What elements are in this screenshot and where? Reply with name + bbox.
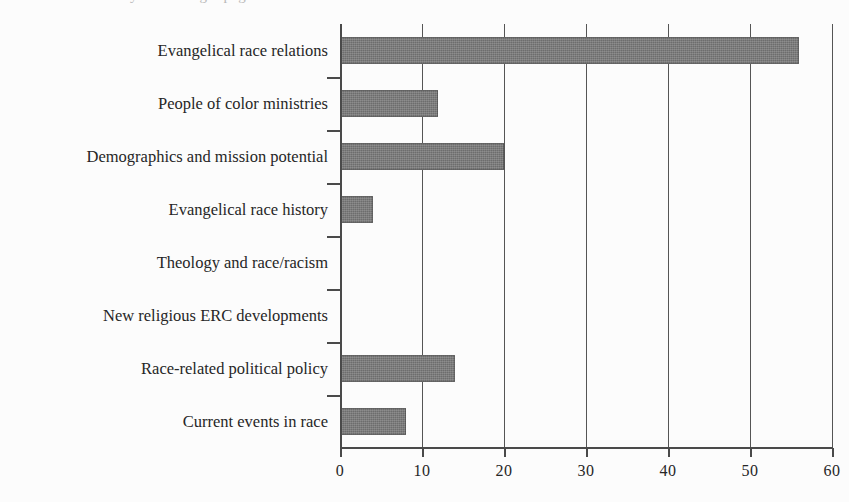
y-axis-tick [327, 342, 340, 344]
y-axis-label: Theology and race/racism [10, 253, 340, 273]
x-axis-tick-label: 0 [336, 462, 345, 480]
y-axis-label: Evangelical race history [10, 200, 340, 220]
gridline-x-30 [586, 24, 587, 448]
x-axis-tick-label: 10 [414, 462, 431, 480]
gridline-x-60 [832, 24, 833, 448]
y-axis-tick [327, 289, 340, 291]
y-axis-tick [327, 77, 340, 79]
bar [340, 90, 438, 117]
x-axis-tick [340, 448, 342, 457]
bar [340, 355, 455, 382]
x-axis-tick [504, 448, 506, 457]
y-axis-line [340, 24, 342, 448]
bar [340, 196, 373, 223]
y-axis-tick [327, 236, 340, 238]
y-axis-label: Demographics and mission potential [10, 147, 340, 167]
gridline-x-10 [422, 24, 423, 448]
bar-chart: Evangelical race relationsPeople of colo… [0, 0, 849, 502]
bar [340, 408, 406, 435]
x-axis-tick-label: 20 [496, 462, 513, 480]
x-axis-tick-label: 60 [824, 462, 841, 480]
y-axis-label: Evangelical race relations [10, 41, 340, 61]
x-axis-tick-label: 50 [742, 462, 759, 480]
y-axis-category-labels: Evangelical race relationsPeople of colo… [0, 0, 340, 502]
plot-area [340, 24, 832, 448]
x-axis-tick [422, 448, 424, 457]
x-axis-tick-label: 30 [578, 462, 595, 480]
y-axis-label: Current events in race [10, 412, 340, 432]
x-axis-tick-label: 40 [660, 462, 677, 480]
y-axis-tick [327, 395, 340, 397]
x-axis-tick [832, 448, 834, 457]
gridline-x-40 [668, 24, 669, 448]
y-axis-tick [327, 183, 340, 185]
bar [340, 37, 799, 64]
y-axis-label: Race-related political policy [10, 359, 340, 379]
x-axis-tick [586, 448, 588, 457]
gridline-x-20 [504, 24, 505, 448]
y-axis-tick [327, 130, 340, 132]
x-axis-tick [668, 448, 670, 457]
y-axis-label: New religious ERC developments [10, 306, 340, 326]
bar [340, 143, 504, 170]
y-axis-label: People of color ministries [10, 94, 340, 114]
gridline-x-50 [750, 24, 751, 448]
x-axis-tick [750, 448, 752, 457]
